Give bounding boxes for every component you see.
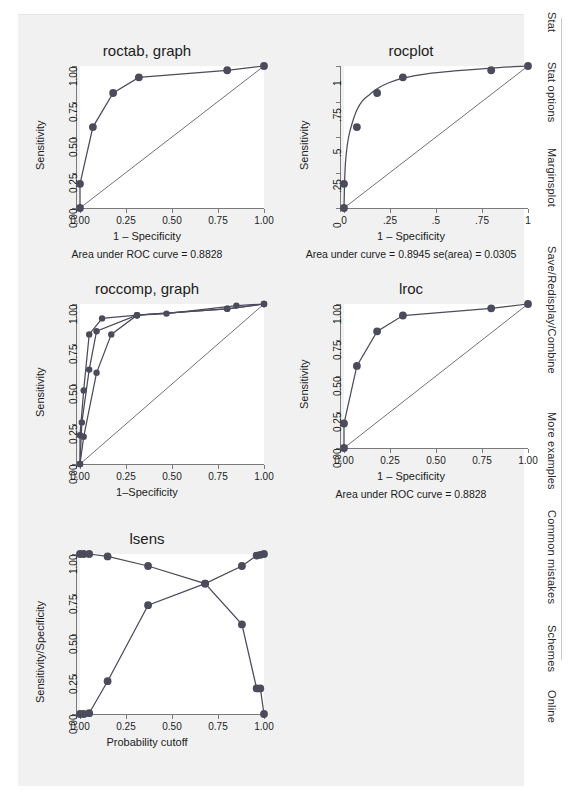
chart-plot-svg (286, 40, 536, 270)
chart-plot-svg (22, 528, 272, 760)
data-point-marker (79, 419, 85, 425)
data-point-marker (224, 306, 230, 312)
chart-plot-svg (22, 278, 272, 510)
chart-panel-lsens: lsens0.000.250.500.751.000.000.250.500.7… (22, 528, 272, 760)
data-point-marker (524, 62, 532, 70)
chart-plot-svg (286, 278, 536, 510)
sidebar-item-more-examples[interactable]: More examples (546, 412, 558, 490)
data-point-marker (201, 580, 209, 588)
data-point-marker (104, 677, 112, 685)
data-point-marker (85, 709, 93, 717)
sidebar-item-schemes[interactable]: Schemes (546, 625, 558, 672)
data-point-marker (353, 362, 361, 370)
data-point-marker (238, 621, 246, 629)
data-point-marker (340, 420, 348, 428)
data-point-marker (261, 301, 267, 307)
reference-diagonal-line (344, 304, 528, 448)
sidebar-divider (561, 18, 562, 660)
data-point-marker (256, 685, 264, 693)
data-point-marker (85, 550, 93, 558)
data-point-marker (76, 204, 84, 212)
data-point-marker (76, 180, 84, 188)
sidebar-item-common-mistakes[interactable]: Common mistakes (546, 510, 558, 604)
chart-plot-svg (22, 40, 272, 270)
data-point-marker (108, 331, 114, 337)
reference-diagonal-line (80, 304, 264, 464)
data-point-marker (86, 331, 92, 337)
data-point-marker (353, 123, 361, 131)
data-point-marker (93, 370, 99, 376)
data-point-marker (134, 312, 140, 318)
data-point-marker (93, 328, 99, 334)
reference-diagonal-line (344, 66, 528, 208)
data-point-marker (223, 66, 231, 74)
page-root: Stat Stat options Marginsplot Save/Redis… (0, 0, 572, 798)
data-point-marker (86, 366, 92, 372)
data-point-marker (80, 434, 86, 440)
data-point-marker (238, 562, 246, 570)
data-point-marker (109, 89, 117, 97)
data-point-marker (487, 66, 495, 74)
data-point-marker (487, 304, 495, 312)
data-point-marker (135, 73, 143, 81)
sidebar-item-marginsplot[interactable]: Marginsplot (546, 148, 558, 207)
data-point-marker (99, 315, 105, 321)
data-point-marker (104, 553, 112, 561)
data-point-marker (144, 562, 152, 570)
data-point-marker (77, 461, 83, 467)
data-point-marker (340, 180, 348, 188)
data-point-marker (524, 300, 532, 308)
series-line (80, 554, 264, 714)
data-point-marker (399, 312, 407, 320)
chart-panel-roccomp: roccomp, graph0.000.250.500.751.000.000.… (22, 278, 272, 510)
sidebar-item-online[interactable]: Online (546, 690, 558, 723)
data-point-marker (340, 204, 348, 212)
data-point-marker (373, 89, 381, 97)
chart-panel-rocplot: rocplot0.25.5.7510.25.5.7511 – Specifici… (286, 40, 536, 270)
data-point-marker (144, 601, 152, 609)
data-point-marker (399, 73, 407, 81)
data-point-marker (260, 62, 268, 70)
data-point-marker (89, 123, 97, 131)
sidebar-item-save-redisplay-combine[interactable]: Save/Redisplay/Combine (546, 246, 558, 374)
chart-panel-roctab: roctab, graph0.000.250.500.751.000.000.2… (22, 40, 272, 270)
sidebar-item-stat-options[interactable]: Stat options (546, 62, 558, 123)
sidebar-item-stat[interactable]: Stat (546, 12, 558, 32)
data-point-marker (340, 444, 348, 452)
data-point-marker (260, 710, 268, 718)
reference-diagonal-line (80, 66, 264, 208)
data-point-marker (373, 327, 381, 335)
chart-panel-lroc: lroc0.000.250.500.751.000.000.250.500.75… (286, 278, 536, 510)
data-point-marker (260, 550, 268, 558)
series-line (80, 554, 264, 714)
